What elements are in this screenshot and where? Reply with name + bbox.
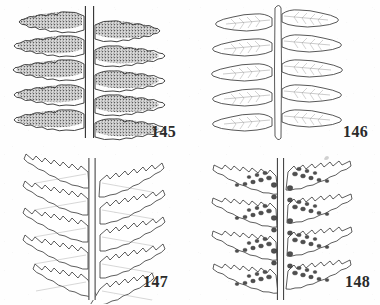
figure-148: 148 (190, 152, 380, 304)
rachis-148 (277, 158, 284, 300)
rachis-145 (85, 6, 94, 138)
figure-number-145: 145 (151, 124, 176, 140)
figure-145: 145 (0, 0, 190, 152)
figure-number-146: 146 (343, 124, 368, 140)
rachis-146 (275, 6, 282, 140)
rachis-147 (89, 158, 96, 300)
figure-number-148: 148 (345, 274, 370, 290)
figure-147: 147 (0, 152, 190, 304)
figure-146: 146 (190, 0, 380, 152)
figure-number-147: 147 (143, 274, 168, 290)
botanical-plate: 145 (0, 0, 380, 305)
